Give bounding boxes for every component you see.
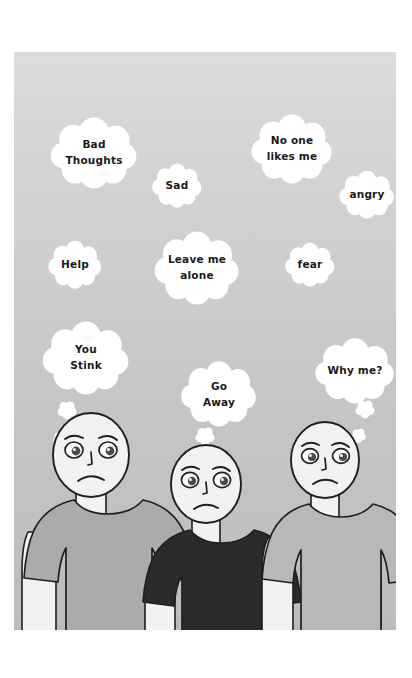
bubble-line: Stink [70, 359, 102, 371]
bubble-line: Away [203, 396, 235, 408]
bubble-line: Help [61, 258, 89, 270]
scene-panel: Bad Thoughts No one likes me Sad angry H… [14, 52, 396, 630]
scene-svg: Bad Thoughts No one likes me Sad angry H… [14, 52, 396, 630]
bubble-line: Go [211, 380, 227, 392]
bubble-line: likes me [267, 150, 318, 162]
bubble-line: Leave me [168, 253, 226, 265]
illustration-canvas: Bad Thoughts No one likes me Sad angry H… [0, 0, 412, 678]
bubble-line: fear [298, 258, 323, 270]
bubble-line: Thoughts [65, 154, 122, 166]
bubble-line: alone [180, 269, 214, 281]
bubble-line: Bad [82, 138, 105, 150]
bubble-line: You [74, 343, 97, 355]
bubble-line: No one [271, 134, 314, 146]
bubble-line: Sad [166, 179, 189, 191]
bubble-line: Why me? [327, 364, 382, 376]
bubble-line: angry [349, 188, 384, 200]
